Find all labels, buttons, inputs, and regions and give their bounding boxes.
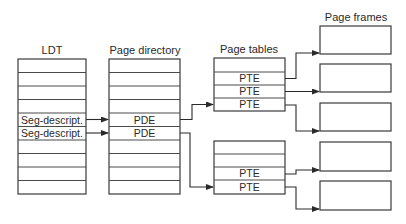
page-directory-title: Page directory (110, 44, 181, 56)
ldt-seg-descriptor-2: Seg-descript. (21, 127, 83, 139)
pde-entry-1: PDE (134, 114, 156, 126)
page-table-2: PTE PTE (214, 141, 285, 194)
pte-1-1: PTE (239, 72, 259, 84)
ldt-to-pd-arrows (86, 120, 108, 134)
arrow-icon (285, 105, 319, 131)
pde-entry-2: PDE (134, 127, 156, 139)
pte-1-3: PTE (239, 98, 259, 110)
page-frame-5 (320, 181, 391, 210)
pte-2-2: PTE (239, 181, 259, 193)
arrow-icon (180, 133, 213, 187)
paging-diagram: LDT Page directory Page tables Page fram… (0, 0, 406, 224)
page-frame-4 (320, 142, 391, 171)
arrow-icon (180, 105, 213, 120)
page-frame-3 (320, 103, 391, 131)
page-table-1: PTE PTE PTE (214, 58, 285, 111)
pd-to-pt-arrows (180, 105, 213, 188)
page-frame-2 (320, 64, 391, 92)
ldt-seg-descriptor-1: Seg-descript. (21, 114, 83, 126)
arrow-icon (285, 170, 319, 174)
pte-2-1: PTE (239, 167, 259, 179)
page-frames-title: Page frames (325, 11, 388, 23)
arrow-icon (285, 53, 319, 79)
pt-to-frame-arrows (285, 53, 319, 209)
page-tables-title: Page tables (220, 43, 279, 55)
arrow-icon (285, 187, 319, 209)
pte-1-2: PTE (239, 85, 259, 97)
page-directory-table: PDE PDE (109, 59, 180, 194)
ldt-table: Seg-descript. Seg-descript. (18, 59, 86, 194)
page-frames (320, 26, 391, 210)
ldt-title: LDT (42, 44, 63, 56)
page-frame-1 (320, 26, 391, 54)
